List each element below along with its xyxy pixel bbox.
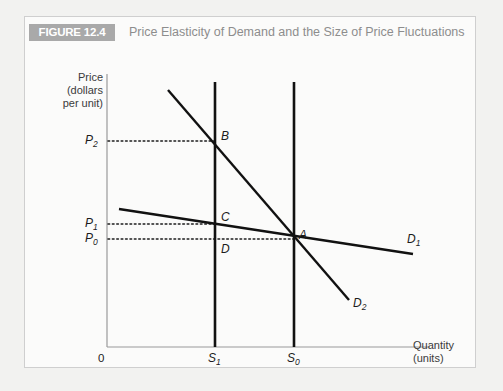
curve-label-d2: D2 (353, 296, 366, 312)
y-tick-label-p1: P1 (85, 216, 98, 232)
figure-title: Price Elasticity of Demand and the Size … (129, 25, 465, 39)
y-axis-caption-line2: (dollars (43, 84, 103, 97)
demand-curve-d2 (168, 90, 349, 300)
x-axis-caption-line2: (units) (413, 352, 454, 365)
point-label-a: A (299, 228, 307, 242)
y-tick-label-p0: P0 (85, 231, 98, 247)
point-label-c: C (221, 210, 230, 224)
x-tick-label-s1: S1 (208, 351, 221, 367)
origin-label: 0 (98, 352, 104, 364)
x-tick-label-s0: S0 (287, 351, 300, 367)
x-axis-caption-line1: Quantity (413, 339, 454, 352)
figure-header: FIGURE 12.4 Price Elasticity of Demand a… (25, 17, 475, 47)
x-axis-caption: Quantity (units) (413, 339, 454, 365)
point-label-d: D (221, 242, 230, 256)
figure-panel: FIGURE 12.4 Price Elasticity of Demand a… (24, 16, 476, 368)
point-label-b: B (221, 129, 229, 143)
plot-area: Price (dollars per unit) Quantity (units… (25, 47, 477, 368)
y-axis-caption-line3: per unit) (43, 97, 103, 110)
y-axis-caption: Price (dollars per unit) (43, 71, 103, 110)
y-axis-caption-line1: Price (43, 71, 103, 84)
figure-number-badge: FIGURE 12.4 (29, 24, 115, 41)
y-tick-label-p2: P2 (85, 133, 98, 149)
curve-label-d1: D1 (407, 232, 420, 248)
demand-curve-d1 (119, 209, 413, 254)
